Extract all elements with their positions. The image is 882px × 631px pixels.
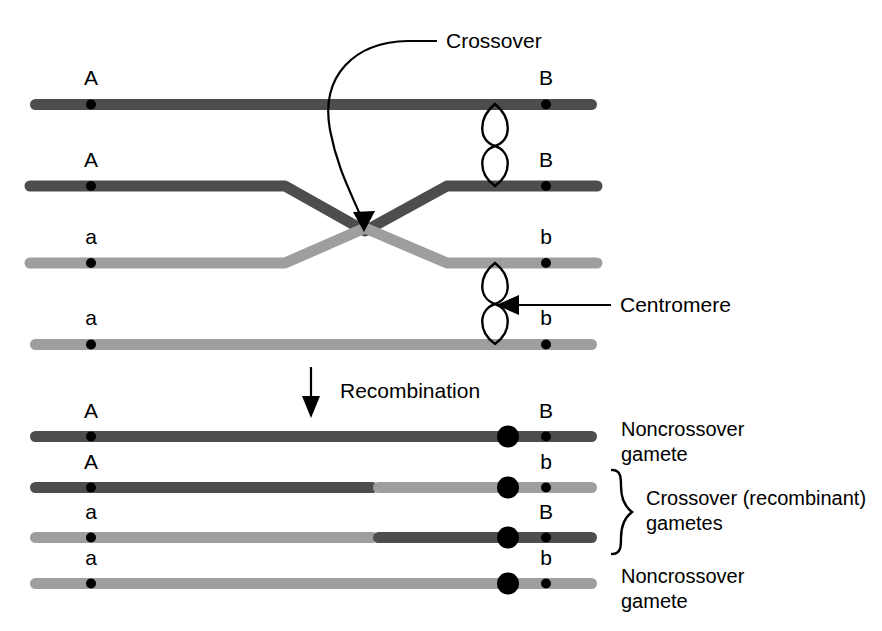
chromatid-1-group: A B	[30, 66, 597, 110]
gamete-4-left-allele-dot	[86, 579, 96, 589]
recombination-callout: Recombination	[302, 367, 480, 418]
chromatid-4-right-allele-label: b	[540, 306, 552, 329]
gamete-1-type-label-line2: gamete	[621, 443, 688, 465]
gamete-3-group: a B	[30, 500, 597, 549]
chromatid-3-right-allele-label: b	[540, 225, 552, 248]
chromatid-2-bar	[30, 186, 597, 231]
chromatid-2-left-allele-label: A	[84, 148, 98, 171]
gamete-1-left-allele-label: A	[84, 399, 98, 422]
gamete-1-type-label-line1: Noncrossover	[621, 418, 745, 440]
chromatid-2-right-allele-label: B	[539, 148, 553, 171]
gamete-2-bar-left	[30, 482, 378, 493]
gamete-2-left-allele-dot	[86, 483, 96, 493]
chromatid-1-bar	[30, 99, 597, 110]
recombination-label: Recombination	[340, 379, 480, 402]
crossover-callout: Crossover	[328, 29, 541, 232]
gamete-4-centromere-dot	[497, 573, 519, 595]
chromatid-1-right-allele-label: B	[539, 66, 553, 89]
crossover-recombination-figure: A B A B a b a b	[0, 0, 882, 631]
recombinant-bracket-shape	[612, 470, 632, 554]
gamete-3-bar-right	[373, 532, 597, 543]
chromatid-3-right-allele-dot	[541, 258, 551, 268]
chromatid-2-group: A B	[30, 148, 597, 231]
gamete-4-type-label-line1: Noncrossover	[621, 565, 745, 587]
chromatid-4-left-allele-label: a	[85, 306, 97, 329]
gamete-4-right-allele-label: b	[540, 546, 552, 569]
gamete-4-left-allele-label: a	[85, 546, 97, 569]
chromatid-1-right-allele-dot	[541, 100, 551, 110]
gamete-1-right-allele-label: B	[539, 399, 553, 422]
recombinant-gametes-label-line2: gametes	[646, 512, 723, 534]
centromere-upper-shape	[482, 104, 508, 186]
recombinant-gametes-bracket: Crossover (recombinant) gametes	[612, 470, 866, 554]
gamete-2-right-allele-label: b	[540, 450, 552, 473]
centromere-label: Centromere	[620, 293, 731, 316]
chromatid-3-group: a b	[30, 225, 597, 268]
chromatid-3-allele-dot	[86, 258, 96, 268]
gamete-3-centromere-dot	[497, 527, 519, 549]
gamete-2-left-allele-label: A	[84, 450, 98, 473]
centromere-callout: Centromere	[496, 293, 731, 316]
crossover-label: Crossover	[446, 29, 542, 52]
chromatid-4-bar	[30, 339, 597, 350]
gamete-2-right-allele-dot	[541, 483, 551, 493]
centromere-arrowhead	[496, 295, 519, 315]
centromere-upper	[482, 104, 508, 186]
gamete-2-centromere-dot	[497, 477, 519, 499]
gamete-4-type-label-line2: gamete	[621, 590, 688, 612]
chromatid-4-group: a b	[30, 306, 597, 350]
chromatid-4-allele-dot	[86, 340, 96, 350]
gamete-1-group: A B Noncrossover gamete	[30, 399, 745, 465]
chromatid-3-left-allele-label: a	[85, 225, 97, 248]
gamete-1-centromere-dot	[497, 426, 519, 448]
chromatid-2-right-allele-dot	[541, 181, 551, 191]
gamete-2-bar-right	[373, 482, 597, 493]
gamete-1-left-allele-dot	[86, 432, 96, 442]
gamete-3-right-allele-dot	[541, 533, 551, 543]
gamete-2-group: A b	[30, 450, 597, 499]
chromatid-4-right-allele-dot	[541, 340, 551, 350]
gamete-3-left-allele-label: a	[85, 500, 97, 523]
gamete-3-right-allele-label: B	[539, 500, 553, 523]
gamete-4-right-allele-dot	[541, 579, 551, 589]
chromatid-2-allele-dot	[86, 181, 96, 191]
chromatid-3-bar	[30, 228, 597, 263]
recombination-arrowhead	[302, 396, 320, 418]
gamete-4-group: a b Noncrossover gamete	[30, 546, 745, 612]
chromatid-1-left-allele-label: A	[84, 66, 98, 89]
gamete-1-right-allele-dot	[541, 432, 551, 442]
gamete-3-bar-left	[30, 532, 378, 543]
chromatid-1-allele-dot	[86, 100, 96, 110]
diagram-canvas: A B A B a b a b	[0, 0, 882, 631]
gamete-3-left-allele-dot	[86, 533, 96, 543]
recombinant-gametes-label-line1: Crossover (recombinant)	[646, 487, 866, 509]
